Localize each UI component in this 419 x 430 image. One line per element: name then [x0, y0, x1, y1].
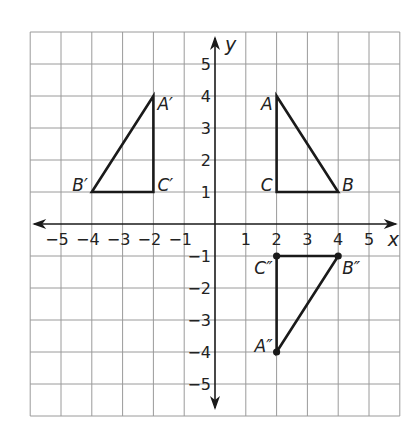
vertex-dot	[273, 348, 280, 355]
y-tick-label: −3	[187, 311, 211, 330]
vertex-label: B′	[72, 175, 88, 195]
y-tick-label: −2	[187, 279, 211, 298]
y-tick-label: 1	[201, 183, 211, 202]
vertex-label: A′	[156, 94, 173, 114]
x-tick-label: −2	[138, 230, 162, 249]
vertex-label: C′	[157, 175, 173, 195]
coordinate-plane: x y −5−4−3−2−11234554321−1−2−3−4−5 ABCA′…	[0, 0, 419, 430]
vertex-label: B	[342, 175, 354, 195]
x-axis-label: x	[387, 228, 400, 250]
x-tick-label: −5	[45, 230, 69, 249]
x-tick-label: −3	[107, 230, 131, 249]
vertex-dot	[273, 252, 280, 259]
x-tick-label: 4	[333, 230, 343, 249]
vertex-dot	[335, 252, 342, 259]
y-axis-label: y	[224, 33, 237, 55]
vertex-label: C	[261, 175, 273, 195]
triangles: ABCA′B′C′A″B″C″	[72, 94, 361, 356]
x-tick-label: 2	[272, 230, 282, 249]
y-tick-label: −5	[187, 375, 211, 394]
y-tick-label: 2	[201, 151, 211, 170]
y-tick-label: 5	[201, 55, 211, 74]
x-tick-label: 3	[302, 230, 312, 249]
vertex-label: B″	[342, 258, 361, 278]
y-tick-label: −1	[187, 247, 211, 266]
vertex-label: A	[260, 94, 273, 114]
y-tick-label: 3	[201, 119, 211, 138]
vertex-label: C″	[254, 258, 273, 278]
x-tick-label: 1	[241, 230, 251, 249]
x-tick-label: −4	[76, 230, 100, 249]
vertex-label: A″	[254, 336, 274, 356]
y-tick-label: 4	[201, 87, 211, 106]
axes: x y	[32, 33, 400, 410]
x-tick-label: 5	[364, 230, 374, 249]
y-tick-label: −4	[187, 343, 211, 362]
